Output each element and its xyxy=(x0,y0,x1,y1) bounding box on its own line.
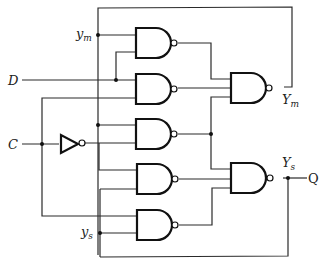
wire-ym-feedback xyxy=(98,7,292,255)
junction-q xyxy=(286,176,290,180)
wire-g3-ys xyxy=(211,134,231,169)
wire-cbar-gate4 xyxy=(99,143,136,170)
wire-g5-ys xyxy=(179,188,231,225)
label-d: D xyxy=(7,73,19,88)
label-q: Q xyxy=(308,171,319,186)
junction-g3-out xyxy=(209,132,213,136)
nand-gate-2 xyxy=(136,74,177,104)
nand-gate-4 xyxy=(137,164,178,194)
label-Ys: Ys xyxy=(282,155,296,172)
wire-g1-ym xyxy=(178,43,231,79)
junction-d xyxy=(114,78,118,82)
wire-c-gate2 xyxy=(42,98,136,143)
wire-d-gate1 xyxy=(116,52,136,80)
wire-ys-gate4 xyxy=(100,189,136,257)
label-c: C xyxy=(8,137,18,152)
nand-gate-3 xyxy=(136,119,177,149)
wire-g3-ym xyxy=(211,97,231,134)
inverter-gate xyxy=(61,135,85,153)
junction-ys xyxy=(98,231,102,235)
nand-gate-5 xyxy=(137,210,178,240)
label-ys: ys xyxy=(80,224,93,241)
nand-gate-ym xyxy=(231,73,272,103)
junction-c xyxy=(40,142,44,146)
wire-c-gate5 xyxy=(42,144,136,216)
label-ym: ym xyxy=(75,26,92,43)
nand-gate-1 xyxy=(136,28,177,58)
junction-ym-gate3 xyxy=(96,123,100,127)
nand-gate-ys xyxy=(231,163,273,193)
junction-ym xyxy=(96,33,100,37)
logic-circuit-diagram: ym D C Ym Ys Q ys xyxy=(0,0,324,277)
label-Ym: Ym xyxy=(282,92,299,109)
